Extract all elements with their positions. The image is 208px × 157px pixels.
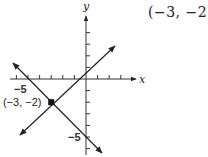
y-tick-label-neg5: −5 — [68, 131, 81, 143]
x-tick-label-neg5: −5 — [14, 83, 27, 95]
line-slope-positive — [20, 46, 115, 135]
y-axis — [86, 16, 90, 155]
line-slope-negative — [13, 63, 102, 153]
intersection-label: (−3, −2) — [3, 96, 42, 108]
x-axis-ticks — [16, 75, 120, 79]
coordinate-graph: x y −5 −5 (−3, −2) — [0, 0, 208, 157]
intersection-point — [48, 99, 54, 105]
y-axis-ticks — [86, 33, 90, 149]
y-axis-label: y — [82, 0, 90, 13]
x-axis-label: x — [139, 73, 146, 86]
